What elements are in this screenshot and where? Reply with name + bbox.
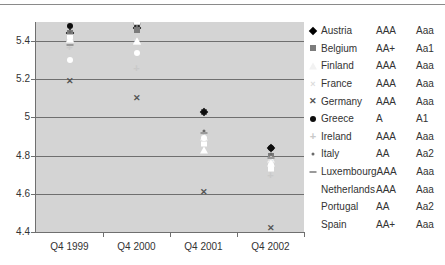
legend-sp-rating: AA+ [376, 43, 416, 54]
legend-marker-icon [306, 41, 320, 55]
y-axis-tick-mark [31, 156, 36, 157]
y-axis-tick-labels: 5.45.254.84.64.4 [0, 0, 30, 265]
gridline [36, 79, 304, 80]
legend-moody-rating: Aa2 [416, 201, 444, 212]
gridline [36, 117, 304, 118]
data-point: ✕ [267, 225, 275, 232]
data-point [201, 142, 207, 147]
data-point [200, 146, 208, 153]
x-axis-tick-label: Q4 2002 [236, 241, 306, 252]
legend-moody-rating: Aaa [416, 166, 444, 177]
legend-row: BelgiumAA+Aa1 [306, 40, 444, 58]
data-point [67, 35, 73, 40]
legend-country-name: Portugal [320, 201, 376, 212]
data-point [268, 162, 274, 168]
legend-moody-rating: Aaa [416, 184, 444, 195]
legend-sp-rating: AAA [377, 166, 417, 177]
y-axis-tick-mark [31, 79, 36, 80]
y-axis-tick-mark [31, 117, 36, 118]
legend-sp-rating: A [376, 113, 416, 124]
legend-marker-icon [306, 59, 320, 73]
x-axis-tick-mark [103, 232, 104, 237]
legend-moody-rating: Aaa [416, 131, 444, 142]
data-point [267, 157, 274, 159]
chart-figure: ××××✕✕✕✕++++ 5.45.254.84.64.4 Q4 1999Q4 … [0, 0, 445, 265]
data-point [134, 20, 140, 25]
y-axis-tick-mark [31, 41, 36, 42]
legend-country-name: Germany [320, 96, 376, 107]
legend-row: ✕GermanyAAAAaa [306, 92, 444, 110]
data-point [133, 38, 141, 45]
legend-marker-icon [306, 217, 320, 231]
data-point [66, 44, 73, 46]
legend-moody-rating: A1 [416, 113, 444, 124]
x-axis-tick-label: Q4 2000 [102, 241, 172, 252]
legend-country-name: Netherlands [320, 184, 376, 195]
legend-moody-rating: Aaa [416, 78, 444, 89]
data-point: ✕ [133, 95, 141, 102]
legend-row: ×FranceAAAAaa [306, 75, 444, 93]
legend-marker-icon: × [306, 77, 320, 91]
legend-sp-rating: AAA [376, 184, 416, 195]
legend-sp-rating: AA [376, 148, 416, 159]
top-divider-rule [0, 4, 445, 5]
legend-marker-icon [306, 112, 320, 126]
legend-moody-rating: Aa2 [416, 148, 444, 159]
data-point: ✕ [66, 78, 74, 85]
legend-sp-rating: AAA [376, 78, 416, 89]
legend-country-name: Finland [320, 60, 376, 71]
legend-marker-icon: + [306, 129, 320, 143]
legend-sp-rating: AAA [376, 25, 416, 36]
legend-marker-icon [306, 200, 320, 214]
y-axis-tick-label: 4.8 [0, 151, 30, 161]
legend-moody-rating: Aa1 [416, 43, 444, 54]
legend-marker-icon [306, 24, 320, 38]
y-axis-tick-label: 4.4 [0, 227, 30, 237]
legend-row: SpainAA+Aaa [306, 216, 444, 234]
legend-moody-rating: Aaa [416, 96, 444, 107]
legend-moody-rating: Aaa [416, 25, 444, 36]
gridline [36, 194, 304, 195]
legend-country-name: Spain [320, 219, 376, 230]
y-axis-tick-mark [31, 194, 36, 195]
legend-sp-rating: AA [376, 201, 416, 212]
legend-row: ItalyAAAa2 [306, 145, 444, 163]
legend-row: NetherlandsAAAAaa [306, 180, 444, 198]
legend-country-name: Belgium [320, 43, 376, 54]
y-axis-line [35, 22, 36, 233]
data-point [67, 23, 73, 29]
legend-marker-icon [306, 165, 320, 179]
x-axis-tick-mark [237, 232, 238, 237]
x-axis-tick-label: Q4 1999 [35, 241, 105, 252]
gridline [36, 41, 304, 42]
legend-sp-rating: AAA [376, 131, 416, 142]
legend-country-name: Luxembourg [320, 166, 377, 177]
legend-row: FinlandAAAAaa [306, 57, 444, 75]
legend-sp-rating: AAA [376, 96, 416, 107]
x-axis-tick-mark [304, 232, 305, 237]
legend-row: GreeceAA1 [306, 110, 444, 128]
y-axis-tick-label: 4.6 [0, 189, 30, 199]
x-axis-tick-label: Q4 2001 [169, 241, 239, 252]
y-axis-tick-mark [31, 232, 36, 233]
legend-country-name: Greece [320, 113, 376, 124]
data-point [67, 57, 73, 63]
data-point [268, 145, 274, 151]
data-point [200, 132, 207, 134]
data-point [68, 30, 71, 33]
legend-sp-rating: AA+ [376, 219, 416, 230]
legend-country-name: Ireland [320, 131, 376, 142]
legend-country-name: France [320, 78, 376, 89]
legend-row: LuxembourgAAAAaa [306, 163, 444, 181]
data-point [134, 27, 140, 33]
data-point [134, 50, 140, 56]
data-point [201, 135, 207, 141]
data-point [269, 152, 272, 155]
data-point: ✕ [200, 188, 208, 195]
y-axis-tick-label: 5 [0, 112, 30, 122]
legend-moody-rating: Aaa [416, 60, 444, 71]
data-point: + [133, 64, 139, 71]
legend-row: PortugalAAAa2 [306, 198, 444, 216]
data-point [201, 109, 207, 115]
legend-marker-icon: ✕ [306, 94, 320, 108]
